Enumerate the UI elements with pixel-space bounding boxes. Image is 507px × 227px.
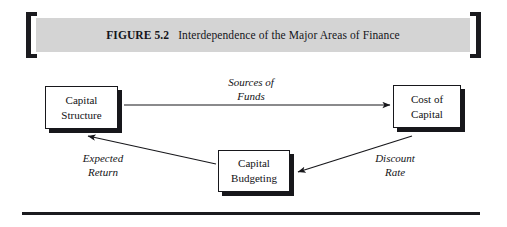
figure-number-label: FIGURE 5.2 <box>106 29 169 41</box>
edge-label-expected-return-line2: Return <box>58 166 148 180</box>
node-cost-of-capital: Cost of Capital <box>393 85 461 128</box>
left-bracket-bottom-arm <box>26 54 37 58</box>
edge-label-sources-of-funds: Sources of Funds <box>196 76 306 104</box>
edge-label-discount-rate: Discount Rate <box>351 152 439 180</box>
right-bracket-stem <box>476 12 481 58</box>
node-cost-of-capital-line2: Capital <box>411 107 443 122</box>
node-capital-budgeting-line2: Budgeting <box>231 171 277 186</box>
left-bracket-stem <box>26 12 31 58</box>
edge-label-discount-rate-line2: Rate <box>351 166 439 180</box>
figure-title-text: Interdependence of the Major Areas of Fi… <box>178 29 400 41</box>
node-capital-budgeting: Capital Budgeting <box>218 150 290 192</box>
figure-caption: FIGURE 5.2 Interdependence of the Major … <box>36 18 470 52</box>
bottom-divider-rule <box>22 212 480 215</box>
edge-label-sources-of-funds-line1: Sources of <box>196 76 306 90</box>
node-capital-structure-line1: Capital <box>66 93 98 108</box>
edge-label-discount-rate-line1: Discount <box>351 152 439 166</box>
node-capital-structure: Capital Structure <box>45 86 118 129</box>
edge-label-expected-return: Expected Return <box>58 152 148 180</box>
figure-container: FIGURE 5.2 Interdependence of the Major … <box>0 0 507 227</box>
edge-label-sources-of-funds-line2: Funds <box>196 90 306 104</box>
node-capital-budgeting-line1: Capital <box>238 156 270 171</box>
node-capital-structure-line2: Structure <box>61 108 101 123</box>
right-bracket-bottom-arm <box>470 54 481 58</box>
left-bracket-top-arm <box>26 12 37 16</box>
node-cost-of-capital-line1: Cost of <box>411 92 443 107</box>
edge-label-expected-return-line1: Expected <box>58 152 148 166</box>
right-bracket-top-arm <box>470 12 481 16</box>
